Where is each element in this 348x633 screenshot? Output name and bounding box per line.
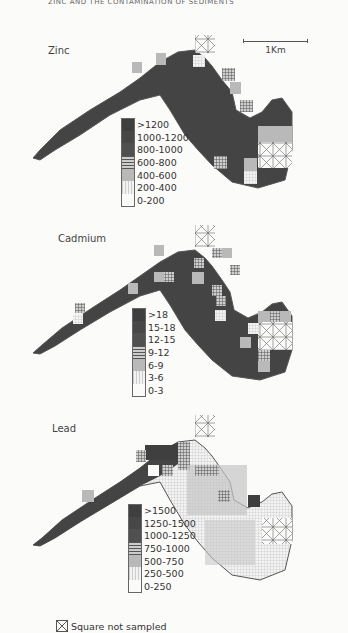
lead-legend: >1500 1250-1500 1000-1250 750-1000 500-7… xyxy=(128,504,196,593)
legend-item: 800-1000 xyxy=(121,143,189,156)
swatch-class-3 xyxy=(132,333,146,346)
legend-item: 0-250 xyxy=(128,580,196,593)
swatch-class-6 xyxy=(132,371,146,384)
swatch-class-4 xyxy=(132,346,146,359)
swatch-class-7 xyxy=(128,580,142,593)
not-sampled-note: Square not sampled xyxy=(56,620,167,632)
legend-item: 250-500 xyxy=(128,567,196,580)
swatch-class-5 xyxy=(132,359,146,372)
swatch-class-2 xyxy=(128,517,142,530)
not-sampled-label: Square not sampled xyxy=(71,621,167,632)
cadmium-legend: >18 15-18 12-15 9-12 6-9 3-6 0-3 xyxy=(132,308,176,397)
swatch-class-5 xyxy=(128,555,142,568)
legend-item: 15-18 xyxy=(132,321,176,334)
legend-item: 200-400 xyxy=(121,181,189,194)
legend-item: 500-750 xyxy=(128,555,196,568)
legend-item: 600-800 xyxy=(121,156,189,169)
crossed-square-icon xyxy=(56,620,68,632)
legend-item: 9-12 xyxy=(132,346,176,359)
legend-item: >1200 xyxy=(121,118,189,131)
legend-item: 1000-1250 xyxy=(128,529,196,542)
swatch-class-3 xyxy=(128,529,142,542)
legend-item: 400-600 xyxy=(121,169,189,182)
legend-item: 0-200 xyxy=(121,194,189,207)
swatch-class-1 xyxy=(121,118,135,131)
lead-panel: Lead >1500 1250-1500 1000-1250 750-1000 … xyxy=(0,410,348,610)
legend-item: >18 xyxy=(132,308,176,321)
legend-item: 12-15 xyxy=(132,333,176,346)
swatch-class-1 xyxy=(132,308,146,321)
swatch-class-2 xyxy=(121,131,135,144)
swatch-class-7 xyxy=(121,194,135,207)
legend-item: 3-6 xyxy=(132,371,176,384)
swatch-class-1 xyxy=(128,504,142,517)
swatch-class-6 xyxy=(128,567,142,580)
legend-item: 750-1000 xyxy=(128,542,196,555)
legend-item: 1000-1200 xyxy=(121,131,189,144)
legend-item: 0-3 xyxy=(132,384,176,397)
legend-item: 1250-1500 xyxy=(128,517,196,530)
swatch-class-5 xyxy=(121,169,135,182)
cadmium-panel: Cadmium >18 15-18 12-15 9-12 6-9 3-6 0-3 xyxy=(0,220,348,410)
swatch-class-6 xyxy=(121,181,135,194)
swatch-class-4 xyxy=(128,542,142,555)
swatch-class-2 xyxy=(132,321,146,334)
swatch-class-3 xyxy=(121,143,135,156)
zinc-panel: Zinc >1200 1000-1200 800-1000 600-800 40… xyxy=(0,0,348,210)
swatch-class-4 xyxy=(121,156,135,169)
swatch-class-7 xyxy=(132,384,146,397)
legend-item: 6-9 xyxy=(132,359,176,372)
legend-item: >1500 xyxy=(128,504,196,517)
zinc-legend: >1200 1000-1200 800-1000 600-800 400-600… xyxy=(121,118,189,207)
